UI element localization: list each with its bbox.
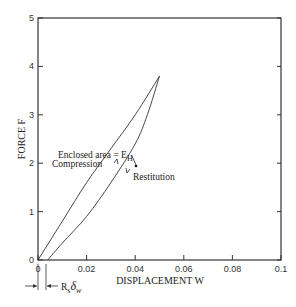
x-axis: 00.020.040.060.080.1 — [35, 255, 287, 274]
y-tick-label: 3 — [29, 110, 34, 120]
x-tick-label: 0.1 — [275, 264, 288, 274]
enclosed-area-marker — [135, 165, 138, 168]
x-tick-label: 0.08 — [224, 264, 242, 274]
y-axis: 012345 — [29, 13, 281, 265]
x-axis-title: DISPLACEMENT W — [116, 275, 204, 286]
x-tick-label: 0.02 — [78, 264, 96, 274]
annotation-restitution: Restitution — [133, 172, 175, 182]
x-tick-label: 0.04 — [126, 264, 144, 274]
restitution-arrow-icon — [126, 168, 130, 173]
y-tick-label: 0 — [29, 255, 34, 265]
right-pointing-arrow-icon — [33, 284, 37, 288]
plot-frame — [38, 18, 281, 260]
rs-delta-w-label: Rsδw — [61, 279, 82, 295]
y-tick-label: 2 — [29, 158, 34, 168]
y-tick-label: 4 — [29, 61, 34, 71]
chart: 012345 00.020.040.060.080.1 FORCE F DISP… — [0, 0, 296, 307]
x-tick-label: 0.06 — [175, 264, 193, 274]
annotation-compression: Compression — [52, 159, 102, 169]
y-axis-title: FORCE F — [16, 118, 27, 159]
y-tick-label: 1 — [29, 207, 34, 217]
y-tick-label: 5 — [29, 13, 34, 23]
left-pointing-arrow-icon — [47, 284, 51, 288]
